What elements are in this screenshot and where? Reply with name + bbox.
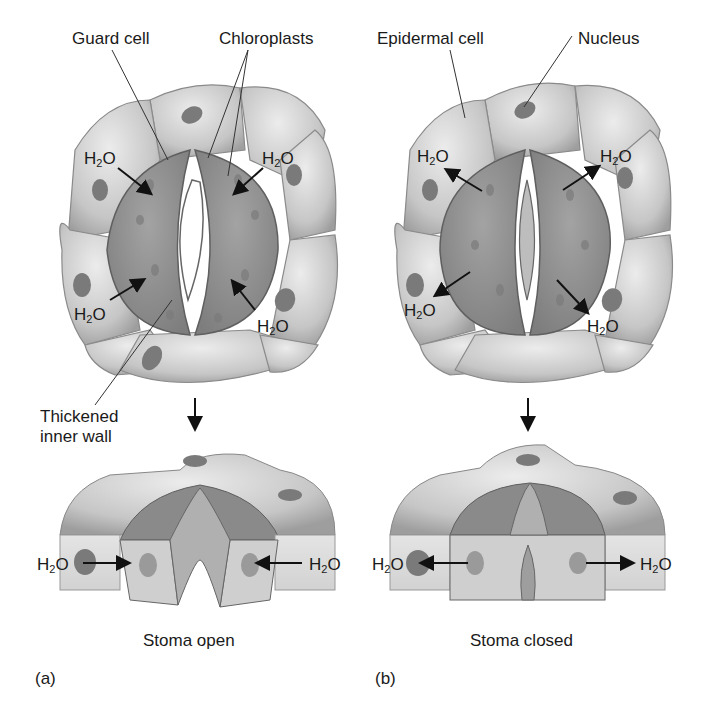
label-thickened-inner-wall: Thickened inner wall (40, 407, 118, 447)
water-label: H2O (600, 148, 632, 167)
caption-stoma-open: Stoma open (143, 631, 235, 651)
label-guard-cell: Guard cell (72, 30, 149, 47)
water-label: H2O (257, 318, 289, 337)
panel-letter-a: (a) (35, 669, 56, 689)
stoma-pore-closed (520, 180, 535, 300)
panel-b-top-view (395, 36, 673, 428)
label-epidermal-cell: Epidermal cell (377, 30, 484, 47)
label-thickened-line2: inner wall (40, 427, 118, 447)
water-label: H2O (84, 150, 116, 169)
panel-a-side-view (60, 454, 335, 607)
label-chloroplasts: Chloroplasts (219, 30, 314, 47)
label-nucleus: Nucleus (578, 30, 639, 47)
water-label: H2O (417, 148, 449, 167)
stoma-pore-open (180, 180, 203, 300)
water-label: H2O (372, 556, 404, 575)
label-thickened-line1: Thickened (40, 407, 118, 427)
water-label: H2O (37, 556, 69, 575)
water-label: H2O (404, 302, 436, 321)
water-label: H2O (640, 556, 672, 575)
water-label: H2O (309, 556, 341, 575)
panel-a-top-view (60, 50, 338, 428)
stomata-illustration (0, 0, 707, 722)
caption-stoma-closed: Stoma closed (470, 631, 573, 651)
water-label: H2O (262, 150, 294, 169)
water-label: H2O (74, 306, 106, 325)
panel-letter-b: (b) (375, 669, 396, 689)
water-label: H2O (587, 318, 619, 337)
panel-b-side-view (390, 445, 665, 600)
